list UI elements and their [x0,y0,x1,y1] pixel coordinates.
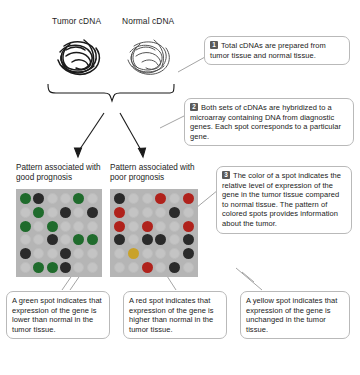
array-spot-green[interactable] [33,207,44,218]
array-spot-green[interactable] [73,234,84,245]
array-spot-green[interactable] [20,221,31,232]
step-number-1: 1 [210,41,218,49]
array-spot-empty[interactable] [128,221,139,232]
step-number-3: 3 [222,171,230,179]
array-spot-dark[interactable] [33,193,44,204]
array-spot-dark[interactable] [169,262,180,273]
array-spot-green[interactable] [47,262,58,273]
array-spot-empty[interactable] [142,207,153,218]
array-cell [113,192,127,206]
array-spot-empty[interactable] [20,207,31,218]
array-spot-dark[interactable] [114,234,125,245]
array-spot-red[interactable] [142,262,153,273]
array-spot-empty[interactable] [20,262,31,273]
array-spot-empty[interactable] [33,234,44,245]
array-spot-empty[interactable] [169,234,180,245]
array-spot-empty[interactable] [169,248,180,259]
array-spot-dark[interactable] [155,234,166,245]
array-spot-empty[interactable] [20,234,31,245]
array-spot-empty[interactable] [128,262,139,273]
array-cell [46,206,59,220]
legend-yellow-callout: A yellow spot indicates that expression … [240,291,350,339]
array-cell [154,192,168,206]
array-spot-empty[interactable] [73,248,84,259]
array-spot-empty[interactable] [128,193,139,204]
array-cell [168,233,182,247]
array-spot-dark[interactable] [169,207,180,218]
array-spot-empty[interactable] [60,221,71,232]
array-spot-green[interactable] [87,234,98,245]
array-spot-empty[interactable] [60,234,71,245]
array-cell [154,247,168,261]
array-spot-empty[interactable] [142,193,153,204]
array-spot-empty[interactable] [33,221,44,232]
array-spot-empty[interactable] [155,207,166,218]
array-spot-red[interactable] [155,193,166,204]
array-spot-dark[interactable] [183,234,194,245]
array-spot-empty[interactable] [60,193,71,204]
array-cell [59,247,72,261]
array-spot-dark[interactable] [87,207,98,218]
array-spot-dark[interactable] [60,248,71,259]
array-spot-dark[interactable] [114,193,125,204]
array-spot-empty[interactable] [33,248,44,259]
array-spot-empty[interactable] [87,221,98,232]
array-cell [32,192,45,206]
array-spot-yellow[interactable] [128,248,139,259]
array-spot-empty[interactable] [169,193,180,204]
array-spot-empty[interactable] [155,262,166,273]
array-spot-empty[interactable] [73,221,84,232]
array-spot-empty[interactable] [47,193,58,204]
array-spot-dark[interactable] [142,234,153,245]
array-cell [19,219,32,233]
array-spot-red[interactable] [114,207,125,218]
microarray-good-prognosis[interactable] [16,189,102,277]
normal-cdna-tangle [128,40,169,74]
array-cell [168,206,182,220]
array-spot-dark[interactable] [47,234,58,245]
callout-step-3: 3The color of a spot indicates the relat… [216,166,352,234]
array-spot-empty[interactable] [155,248,166,259]
array-spot-empty[interactable] [47,207,58,218]
array-spot-empty[interactable] [183,207,194,218]
array-spot-empty[interactable] [87,193,98,204]
array-spot-empty[interactable] [142,248,153,259]
array-spot-green[interactable] [33,262,44,273]
callout-step-1: 1Total cDNAs are prepared from tumor tis… [204,36,350,65]
array-spot-empty[interactable] [155,221,166,232]
array-spot-empty[interactable] [169,221,180,232]
array-spot-red[interactable] [114,221,125,232]
callout-step-2: 2Both sets of cDNAs are hybridized to a … [184,98,354,146]
array-spot-empty[interactable] [128,207,139,218]
array-spot-empty[interactable] [73,207,84,218]
array-spot-empty[interactable] [183,262,194,273]
array-spot-dark[interactable] [60,207,71,218]
array-cell [59,219,72,233]
array-cell [181,233,195,247]
array-spot-green[interactable] [73,193,84,204]
array-spot-empty[interactable] [73,262,84,273]
array-spot-green[interactable] [20,193,31,204]
array-spot-empty[interactable] [87,262,98,273]
array-spot-dark[interactable] [183,248,194,259]
array-spot-empty[interactable] [114,262,125,273]
array-spot-empty[interactable] [128,234,139,245]
array-spot-green[interactable] [47,221,58,232]
array-spot-dark[interactable] [60,262,71,273]
array-cell [154,206,168,220]
array-cell [19,247,32,261]
array-cell [19,206,32,220]
array-spot-dark[interactable] [20,248,31,259]
array-spot-red[interactable] [142,221,153,232]
array-cell [140,206,154,220]
array-cell [46,247,59,261]
array-cell [168,260,182,274]
array-cell [168,219,182,233]
array-spot-red[interactable] [183,221,194,232]
array-spot-empty[interactable] [87,248,98,259]
microarray-poor-prognosis[interactable] [110,189,198,277]
array-spot-empty[interactable] [47,248,58,259]
array-spot-red[interactable] [183,193,194,204]
array-spot-empty[interactable] [114,248,125,259]
legend-red-callout: A red spot indicates that expression of … [123,291,227,339]
